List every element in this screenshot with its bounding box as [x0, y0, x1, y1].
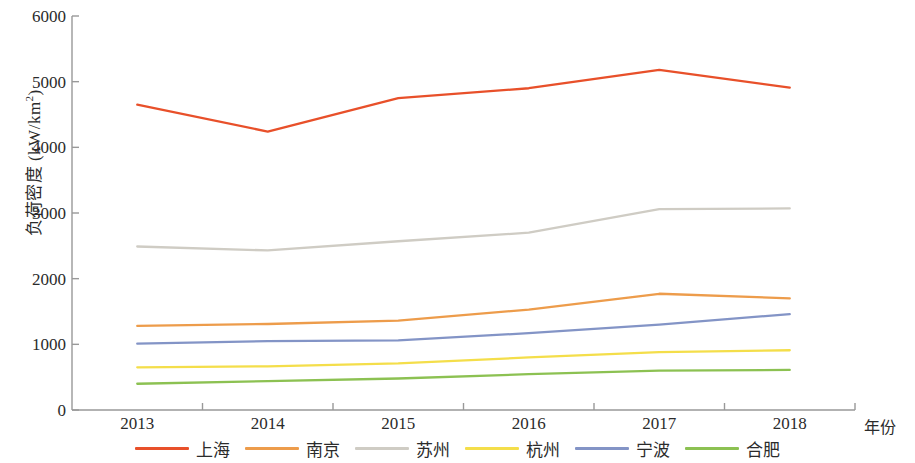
y-axis-ticks — [72, 16, 79, 410]
legend-item-南京[interactable]: 南京 — [245, 436, 341, 461]
legend-label: 杭州 — [526, 436, 561, 461]
x-axis-tick-label: 2014 — [228, 414, 308, 434]
legend-item-宁波[interactable]: 宁波 — [575, 436, 671, 461]
x-axis-ticks — [203, 403, 856, 410]
series-lines — [137, 70, 790, 384]
legend-label: 南京 — [306, 436, 341, 461]
legend-item-杭州[interactable]: 杭州 — [465, 436, 561, 461]
legend-swatch-icon — [685, 447, 739, 450]
legend-label: 上海 — [196, 436, 231, 461]
legend-item-上海[interactable]: 上海 — [135, 436, 231, 461]
x-axis-tick-label: 2017 — [619, 414, 699, 434]
legend-swatch-icon — [355, 447, 409, 450]
legend-swatch-icon — [465, 447, 519, 450]
series-line-上海 — [137, 70, 790, 132]
series-line-合肥 — [137, 370, 790, 384]
legend-label: 苏州 — [416, 436, 451, 461]
x-axis-tick-label: 2016 — [489, 414, 569, 434]
legend-swatch-icon — [245, 447, 299, 450]
x-axis-tick-label: 2018 — [750, 414, 830, 434]
plot-area — [0, 0, 915, 463]
x-axis-tick-label: 2015 — [358, 414, 438, 434]
x-axis-tick-label: 2013 — [97, 414, 177, 434]
series-line-苏州 — [137, 208, 790, 250]
series-line-杭州 — [137, 350, 790, 367]
legend-item-合肥[interactable]: 合肥 — [685, 436, 781, 461]
x-axis-title: 年份 — [864, 414, 896, 438]
series-line-宁波 — [137, 314, 790, 344]
legend-label: 合肥 — [746, 436, 781, 461]
legend-item-苏州[interactable]: 苏州 — [355, 436, 451, 461]
legend-label: 宁波 — [636, 436, 671, 461]
legend-swatch-icon — [135, 447, 189, 450]
chart-legend: 上海南京苏州杭州宁波合肥 — [0, 436, 915, 461]
legend-swatch-icon — [575, 447, 629, 450]
line-chart-figure: 负荷密度 (kW/km2) 0100020003000400050006000 … — [0, 0, 915, 463]
